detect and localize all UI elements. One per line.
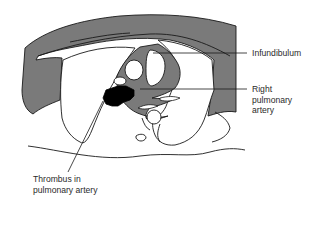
label-thrombus: Thrombus in pulmonary artery	[33, 174, 97, 195]
chest-side-contour	[212, 112, 230, 142]
label-infundibulum: Infundibulum	[252, 48, 301, 59]
vertebra	[136, 134, 146, 141]
ascending-aorta	[125, 60, 143, 80]
descending-aorta	[147, 110, 161, 124]
back-skin-line	[28, 146, 245, 158]
superior-vena-cava	[114, 77, 126, 85]
label-right-pulmonary-artery: Right pulmonary artery	[252, 84, 292, 116]
